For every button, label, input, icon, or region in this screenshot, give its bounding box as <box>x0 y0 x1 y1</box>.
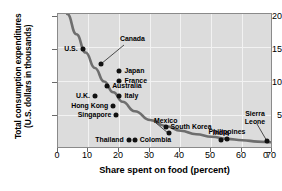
x-axis-title: Share spent on food (percent) <box>57 165 272 175</box>
data-point <box>132 138 137 143</box>
data-point <box>99 61 104 66</box>
data-point <box>111 103 116 108</box>
data-point <box>105 84 110 89</box>
chart-figure: Total consumption expenditures (U.S. dol… <box>0 0 282 191</box>
plot-area: U.S.CanadaJapanFranceAustraliaU.K.ItalyH… <box>57 13 272 148</box>
point-label: Canada <box>120 35 145 43</box>
data-point <box>117 69 122 74</box>
x-tick-0: 0 <box>42 150 72 160</box>
point-label: Japan <box>124 68 144 76</box>
data-point <box>218 138 223 143</box>
x-tick-50: 50 <box>195 150 225 160</box>
point-label: U.S. <box>64 45 77 53</box>
point-label: Thailand <box>95 136 123 144</box>
point-label: SierraLeone <box>245 110 265 125</box>
point-label: Singapore <box>78 111 112 119</box>
x-tick-20: 20 <box>103 150 133 160</box>
leader-line <box>101 45 124 64</box>
y-axis-title-line1: Total consumption expenditures <box>13 1 23 151</box>
data-point <box>80 47 85 52</box>
point-label: Philippines <box>209 128 246 136</box>
x-tick-70: 70 <box>256 150 282 160</box>
y-axis-title: Total consumption expenditures (U.S. dol… <box>13 1 33 151</box>
data-point <box>117 94 122 99</box>
point-label: U.K. <box>76 93 90 101</box>
x-tick-60: 60 <box>226 150 256 160</box>
point-label: Australia <box>112 82 142 90</box>
data-point <box>264 138 269 143</box>
data-point <box>114 113 119 118</box>
data-point <box>92 94 97 99</box>
x-tick-40: 40 <box>164 150 194 160</box>
data-point <box>163 124 168 129</box>
data-point <box>166 131 171 136</box>
x-tick-30: 30 <box>134 150 164 160</box>
y-axis-title-line2: (U.S. dollars in thousands) <box>23 1 33 151</box>
data-point <box>224 136 229 141</box>
point-label: Colombia <box>140 136 171 144</box>
point-label: Mexico <box>154 117 177 125</box>
x-tick-10: 10 <box>72 150 102 160</box>
point-label: Italy <box>124 93 138 101</box>
data-point <box>126 138 131 143</box>
point-label: Hong Kong <box>71 102 108 110</box>
